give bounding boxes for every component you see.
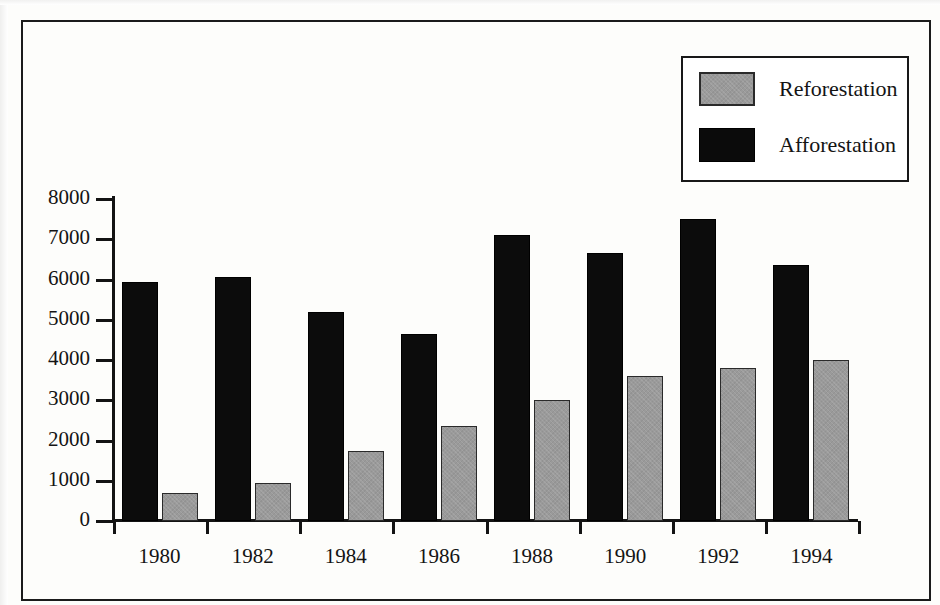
legend-swatch-afforestation [699, 128, 755, 162]
y-axis-tick [96, 480, 113, 483]
y-axis-tick [96, 238, 113, 241]
x-axis-tick-label: 1988 [487, 545, 577, 568]
x-axis-tick-label: 1990 [580, 545, 670, 568]
bar-afforestation-1990 [587, 253, 623, 521]
x-axis-tick [113, 521, 116, 534]
legend-label-afforestation: Afforestation [779, 131, 896, 159]
y-axis-tick [96, 319, 113, 322]
scanned-page: 8000700060005000400030002000100001980198… [0, 0, 940, 605]
x-axis-tick-label: 1982 [208, 545, 298, 568]
x-axis-tick [579, 521, 582, 534]
x-axis-tick [392, 521, 395, 534]
y-axis-tick-label: 0 [20, 509, 90, 530]
chart-legend: Reforestation Afforestation [681, 56, 909, 182]
bar-reforestation-1992 [720, 368, 756, 521]
bar-afforestation-1988 [494, 235, 530, 521]
bar-reforestation-1990 [627, 376, 663, 521]
y-axis-tick [96, 279, 113, 282]
bar-reforestation-1986 [441, 426, 477, 521]
y-axis-tick-label: 1000 [20, 469, 90, 490]
x-axis-tick-label: 1986 [394, 545, 484, 568]
y-axis-tick [96, 399, 113, 402]
bar-reforestation-1980 [162, 493, 198, 521]
bar-afforestation-1980 [122, 282, 158, 521]
y-axis-tick [96, 198, 113, 201]
y-axis-tick-label: 8000 [20, 187, 90, 208]
y-axis-tick-label: 3000 [20, 388, 90, 409]
x-axis-tick [672, 521, 675, 534]
x-axis-tick [858, 521, 861, 534]
y-axis-tick [96, 359, 113, 362]
x-axis-tick [206, 521, 209, 534]
legend-label-reforestation: Reforestation [779, 75, 898, 103]
y-axis-tick-label: 6000 [20, 268, 90, 289]
x-axis-tick-label: 1980 [115, 545, 205, 568]
y-axis-tick-label: 5000 [20, 308, 90, 329]
bar-reforestation-1984 [348, 451, 384, 521]
legend-swatch-reforestation [699, 72, 755, 106]
y-axis-tick [96, 520, 113, 523]
x-axis-tick-label: 1992 [673, 545, 763, 568]
x-axis-tick-label: 1984 [301, 545, 391, 568]
bar-afforestation-1994 [773, 265, 809, 521]
y-axis-tick [96, 440, 113, 443]
bar-reforestation-1982 [255, 483, 291, 521]
x-axis-tick [765, 521, 768, 534]
y-axis-tick-label: 2000 [20, 429, 90, 450]
x-axis-tick [299, 521, 302, 534]
bar-afforestation-1984 [308, 312, 344, 521]
x-axis-tick-label: 1994 [766, 545, 856, 568]
bar-afforestation-1982 [215, 277, 251, 521]
y-axis-tick-label: 4000 [20, 348, 90, 369]
y-axis-tick-label: 7000 [20, 227, 90, 248]
bar-reforestation-1994 [813, 360, 849, 521]
x-axis-tick [486, 521, 489, 534]
bar-reforestation-1988 [534, 400, 570, 521]
bar-afforestation-1986 [401, 334, 437, 521]
bar-afforestation-1992 [680, 219, 716, 521]
